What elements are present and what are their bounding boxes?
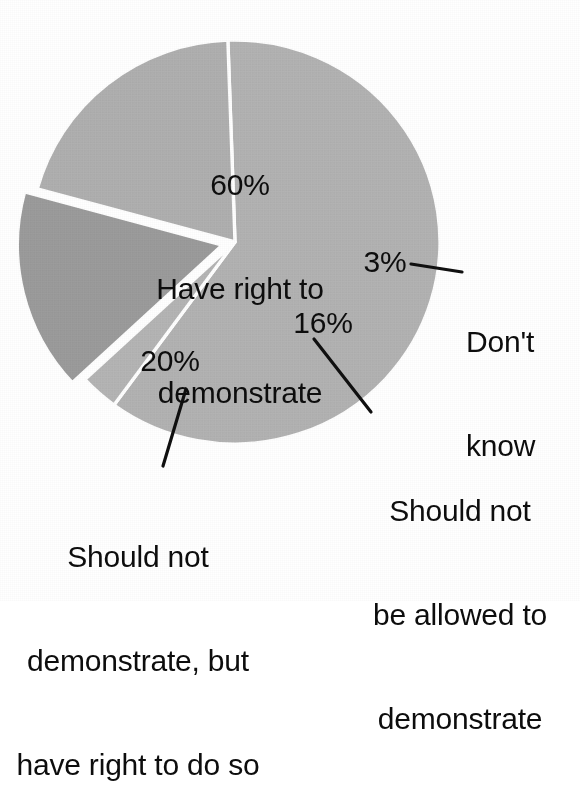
slice-percent-not-demonstrate: 20%: [110, 344, 230, 379]
slice-text-not-allowed-line1: Should not: [338, 494, 580, 529]
slice-text-dont-know-line1: Don't: [466, 325, 580, 360]
slice-text-have-right-line2: demonstrate: [110, 376, 370, 411]
slice-percent-have-right: 60%: [110, 168, 370, 203]
slice-text-have-right-line1: Have right to: [110, 272, 370, 307]
slice-text-not-demonstrate-line1: Should not: [2, 540, 274, 575]
slice-label-have-right: 60% Have right to demonstrate: [110, 98, 370, 481]
slice-label-not-allowed: Should not be allowed to demonstrate: [338, 424, 580, 785]
slice-percent-not-allowed: 16%: [268, 306, 378, 341]
slice-text-not-demonstrate-line2: demonstrate, but: [2, 644, 274, 679]
slice-text-not-allowed-line3: demonstrate: [338, 702, 580, 737]
slice-text-not-demonstrate-line3: have right to do so: [2, 748, 274, 783]
slice-text-not-allowed-line2: be allowed to: [338, 598, 580, 633]
slice-percent-dont-know: 3%: [350, 245, 420, 280]
slice-label-not-demonstrate: Should not demonstrate, but have right t…: [2, 470, 274, 785]
